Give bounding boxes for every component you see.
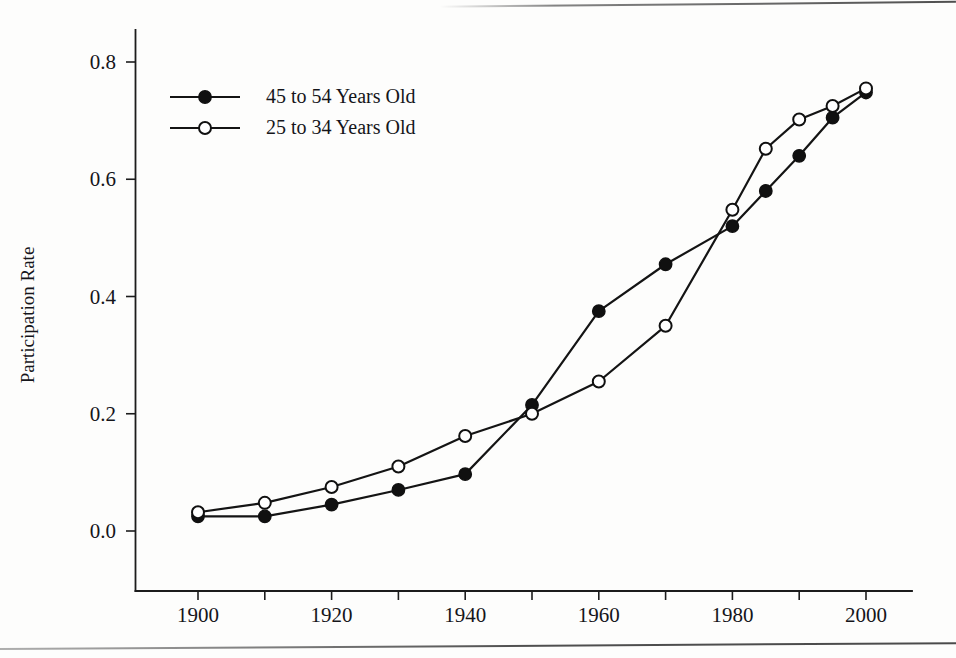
data-point-marker: [726, 220, 738, 232]
y-tick-labels: 0.00.20.40.60.8: [90, 50, 117, 543]
data-point-marker: [392, 484, 404, 496]
y-tick-label: 0.2: [90, 402, 116, 426]
data-point-marker: [325, 498, 337, 510]
series-line: [198, 92, 866, 516]
data-point-marker: [593, 376, 605, 388]
x-tick-label: 2000: [845, 603, 887, 627]
data-point-marker: [793, 113, 805, 125]
data-point-marker: [259, 510, 271, 522]
y-tick-label: 0.4: [90, 285, 117, 309]
data-series-2: [192, 82, 872, 518]
data-point-marker: [860, 82, 872, 94]
x-tick-labels: 190019201940196019802000: [177, 603, 887, 627]
x-tick-label: 1980: [711, 603, 753, 627]
y-tick-marks: [126, 62, 136, 531]
x-tick-label: 1900: [177, 603, 219, 627]
legend-entry-2: 25 to 34 Years Old: [170, 116, 415, 138]
chart-legend: 45 to 54 Years Old25 to 34 Years Old: [170, 85, 415, 138]
data-point-marker: [659, 258, 671, 270]
data-point-marker: [392, 461, 404, 473]
x-tick-marks: [198, 591, 866, 600]
data-point-marker: [593, 305, 605, 317]
legend-label: 45 to 54 Years Old: [266, 85, 415, 107]
x-axis: 190019201940196019802000: [136, 591, 913, 627]
x-tick-label: 1940: [444, 603, 486, 627]
data-series-layer: [192, 82, 872, 522]
data-point-marker: [726, 204, 738, 216]
data-point-marker: [459, 468, 471, 480]
y-axis-title: Participation Rate: [17, 247, 38, 384]
data-point-marker: [192, 506, 204, 518]
x-tick-label: 1960: [578, 603, 620, 627]
data-point-marker: [526, 408, 538, 420]
data-point-marker: [326, 481, 338, 493]
data-point-marker: [793, 150, 805, 162]
legend-entry-1: 45 to 54 Years Old: [170, 85, 415, 107]
legend-marker: [199, 122, 211, 134]
data-point-marker: [827, 100, 839, 112]
data-point-marker: [760, 143, 772, 155]
legend-label: 25 to 34 Years Old: [266, 116, 415, 138]
data-point-marker: [826, 111, 838, 123]
page-background: 0.00.20.40.60.8 Participation Rate 19001…: [0, 0, 956, 658]
data-point-marker: [259, 497, 271, 509]
y-axis: 0.00.20.40.60.8 Participation Rate: [17, 30, 136, 591]
data-point-marker: [660, 320, 672, 332]
y-tick-label: 0.0: [90, 519, 116, 543]
legend-marker: [199, 91, 211, 103]
y-tick-label: 0.8: [90, 50, 116, 74]
chart-plot-area: 0.00.20.40.60.8 Participation Rate 19001…: [0, 0, 956, 658]
line-chart-figure: 0.00.20.40.60.8 Participation Rate 19001…: [0, 0, 956, 658]
data-point-marker: [459, 430, 471, 442]
x-tick-label: 1920: [311, 603, 353, 627]
y-tick-label: 0.6: [90, 167, 116, 191]
data-point-marker: [760, 185, 772, 197]
